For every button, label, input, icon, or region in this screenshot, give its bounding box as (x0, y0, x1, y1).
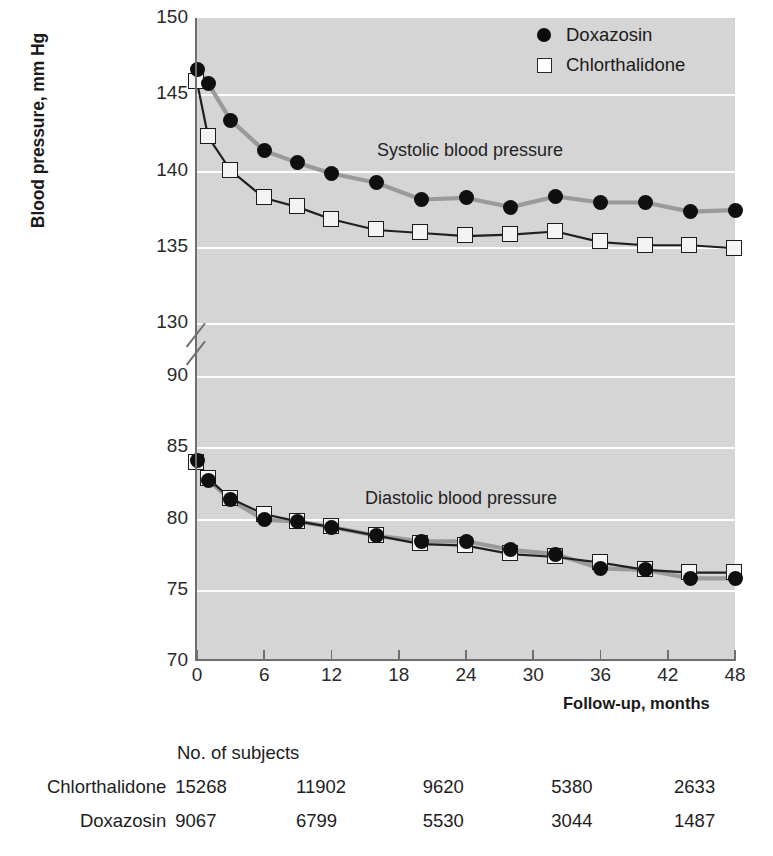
data-point (323, 211, 339, 227)
table-cell: 5380 (551, 776, 674, 798)
data-point (593, 561, 608, 576)
data-point (547, 223, 563, 239)
annotation-diastolic: Diastolic blood pressure (365, 488, 557, 509)
plot-area: Systolic blood pressure Diastolic blood … (197, 18, 735, 661)
data-point (414, 534, 429, 549)
legend: Doxazosin Chlorthalidone (530, 20, 685, 80)
table-cell: 3044 (551, 810, 674, 832)
table-row: Chlorthalidone1526811902962053802633 (0, 776, 773, 810)
table-body: Chlorthalidone1526811902962053802633Doxa… (0, 776, 773, 844)
data-point (412, 224, 428, 240)
x-tick-mark (263, 650, 265, 661)
data-point (369, 528, 384, 543)
data-point (548, 547, 563, 562)
x-tick-label: 0 (174, 664, 220, 686)
x-tick-label: 42 (645, 664, 691, 686)
x-tick-label: 30 (510, 664, 556, 686)
subjects-table: No. of subjects Chlorthalidone1526811902… (0, 742, 773, 844)
x-tick-mark (667, 650, 669, 661)
data-point (637, 237, 653, 253)
data-point (200, 128, 216, 144)
y-axis-line (195, 18, 197, 661)
table-header-row: No. of subjects (0, 742, 773, 776)
x-tick-mark (398, 650, 400, 661)
x-tick-mark (196, 650, 198, 661)
x-tick-label: 24 (443, 664, 489, 686)
blood-pressure-figure: Blood pressure, mm Hg Systolic blood pre… (0, 0, 773, 856)
table-row-label: Doxazosin (0, 810, 175, 832)
y-axis-title: Blood pressure, mm Hg (28, 1, 49, 261)
data-point (201, 76, 216, 91)
series-line-chlorthalidone-diastolic (197, 463, 735, 573)
table-cell: 9620 (423, 776, 552, 798)
table-cell: 15268 (175, 776, 296, 798)
data-point (368, 221, 384, 237)
data-point (728, 203, 743, 218)
data-point (324, 520, 339, 535)
x-tick-label: 48 (712, 664, 758, 686)
table-cell: 5530 (423, 810, 552, 832)
data-point (683, 571, 698, 586)
table-cell: 6799 (296, 810, 423, 832)
x-tick-label: 6 (241, 664, 287, 686)
legend-label: Doxazosin (566, 24, 652, 46)
x-tick-mark (331, 650, 333, 661)
x-tick-mark (532, 650, 534, 661)
table-row: Doxazosin90676799553030441487 (0, 810, 773, 844)
x-tick-mark (465, 650, 467, 661)
x-tick-label: 18 (376, 664, 422, 686)
table-cell: 1487 (674, 810, 773, 832)
data-point (459, 534, 474, 549)
data-point (683, 204, 698, 219)
data-point (592, 233, 608, 249)
data-point (459, 190, 474, 205)
table-cell: 11902 (296, 776, 423, 798)
data-point (681, 237, 697, 253)
legend-item-chlorthalidone: Chlorthalidone (530, 50, 685, 80)
data-point (222, 162, 238, 178)
data-point (548, 189, 563, 204)
x-axis-title: Follow-up, months (563, 694, 710, 713)
data-point (256, 189, 272, 205)
series-line-doxazosin-diastolic (197, 460, 735, 578)
x-tick-mark (734, 650, 736, 661)
x-tick-mark (600, 650, 602, 661)
x-tick-label: 36 (578, 664, 624, 686)
data-point (593, 195, 608, 210)
table-header-label: No. of subjects (177, 742, 299, 764)
data-point (369, 175, 384, 190)
open-square-icon (530, 58, 558, 73)
data-point (289, 198, 305, 214)
legend-item-doxazosin: Doxazosin (530, 20, 685, 50)
legend-label: Chlorthalidone (566, 54, 685, 76)
table-cell: 2633 (674, 776, 773, 798)
filled-circle-icon (530, 28, 558, 42)
data-point (503, 200, 518, 215)
data-point (502, 226, 518, 242)
data-point (414, 192, 429, 207)
data-point (726, 240, 742, 256)
table-cell: 9067 (175, 810, 296, 832)
data-point (324, 166, 339, 181)
series-line-chlorthalidone-systolic (197, 82, 735, 248)
data-point (457, 227, 473, 243)
annotation-systolic: Systolic blood pressure (377, 140, 563, 161)
data-point (728, 571, 743, 586)
table-row-label: Chlorthalidone (0, 776, 175, 798)
series-lines (197, 18, 735, 661)
data-point (257, 143, 272, 158)
x-tick-label: 12 (309, 664, 355, 686)
data-point (638, 195, 653, 210)
data-point (223, 113, 238, 128)
data-point (201, 473, 216, 488)
